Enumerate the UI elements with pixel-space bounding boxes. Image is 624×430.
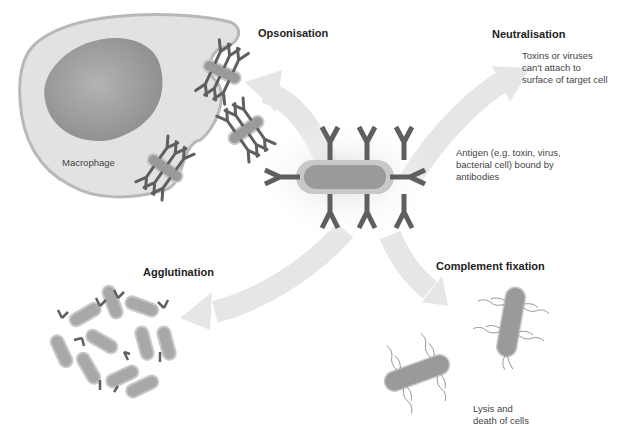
complement-description: Lysis and death of cells [473, 403, 529, 427]
opsonisation-title: Opsonisation [258, 27, 328, 39]
central-antigen [255, 118, 435, 238]
agglutination-title: Agglutination [143, 266, 214, 278]
complement-fixation-title: Complement fixation [436, 260, 545, 272]
neutralisation-title: Neutralisation [492, 28, 565, 40]
macrophage-label: Macrophage [62, 157, 115, 169]
lysed-bacterium-1 [373, 328, 462, 419]
lysed-bacterium-2 [467, 281, 552, 375]
neutralisation-description: Toxins or viruses can't attach to surfac… [522, 50, 608, 86]
antigen-caption: Antigen (e.g. toxin, virus, bacterial ce… [456, 147, 561, 183]
agglutination-cluster [48, 284, 177, 400]
arrow-agglutination [180, 230, 345, 330]
macrophage-cell [20, 15, 239, 197]
